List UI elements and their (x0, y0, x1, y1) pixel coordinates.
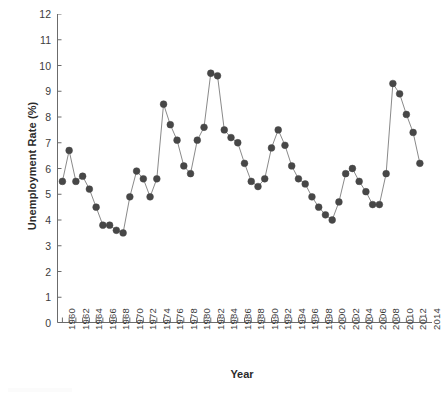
y-tick-label: 12 (39, 8, 51, 20)
data-point-marker (140, 175, 147, 182)
data-point-marker (363, 188, 370, 195)
data-point-marker (282, 142, 289, 149)
y-tick-label: 6 (45, 163, 51, 175)
y-tick-label: 8 (45, 111, 51, 123)
y-tick-label: 0 (45, 317, 51, 329)
y-tick-label: 5 (45, 188, 51, 200)
y-tick-label: 9 (45, 85, 51, 97)
data-point-marker (383, 170, 390, 177)
data-point-marker (403, 111, 410, 118)
data-point-marker (180, 163, 187, 170)
y-axis-ticks (58, 14, 62, 323)
data-point-marker (329, 217, 336, 224)
axis-spines (58, 14, 433, 323)
x-tick-label: 2012 (417, 308, 428, 330)
data-point-marker (201, 124, 208, 131)
data-point-marker (248, 178, 255, 185)
data-point-marker (106, 222, 113, 229)
x-tick-label: 2000 (336, 308, 347, 330)
data-point-marker (126, 193, 133, 200)
x-tick-label: 2006 (377, 308, 388, 330)
data-point-marker (59, 178, 66, 185)
x-tick-label: 1990 (269, 308, 280, 330)
data-point-marker (86, 186, 93, 193)
x-tick-label: 2002 (350, 308, 361, 330)
data-point-marker (93, 204, 100, 211)
data-point-marker (376, 201, 383, 208)
data-point-marker (147, 193, 154, 200)
y-axis-title: Unemployment Rate (%) (26, 71, 38, 261)
x-tick-label: 1972 (147, 308, 158, 330)
plot-svg (57, 14, 432, 323)
x-tick-label: 1996 (309, 308, 320, 330)
data-point-marker (72, 178, 79, 185)
x-tick-label: 1964 (93, 308, 104, 330)
y-tick-label: 10 (39, 60, 51, 72)
data-point-marker (187, 170, 194, 177)
y-tick-label: 1 (45, 291, 51, 303)
x-tick-label: 2008 (390, 308, 401, 330)
data-point-marker (268, 145, 275, 152)
y-tick-label: 2 (45, 266, 51, 278)
data-point-marker (113, 227, 120, 234)
x-tick-label: 1988 (255, 308, 266, 330)
data-point-marker (295, 175, 302, 182)
x-tick-label: 1998 (323, 308, 334, 330)
unemployment-rate-line-chart: Unemployment Rate (%) 0123456789101112 1… (0, 0, 442, 395)
data-point-marker (221, 126, 228, 133)
data-point-marker (302, 181, 309, 188)
data-point-marker (336, 199, 343, 206)
data-point-marker (194, 137, 201, 144)
data-point-marker (228, 134, 235, 141)
data-point-marker (356, 178, 363, 185)
y-tick-label: 3 (45, 240, 51, 252)
x-tick-label: 1966 (107, 308, 118, 330)
y-tick-label: 11 (40, 34, 51, 46)
plot-area: 0123456789101112 19601962196419661968197… (57, 14, 432, 323)
data-point-marker (416, 160, 423, 167)
x-tick-label: 1992 (282, 308, 293, 330)
page-edge-artifact (8, 388, 72, 392)
data-point-marker (174, 137, 181, 144)
x-axis-title: Year (48, 368, 436, 380)
x-tick-label: 1978 (188, 308, 199, 330)
data-point-marker (342, 170, 349, 177)
data-point-marker (410, 129, 417, 136)
x-tick-label: 1970 (134, 308, 145, 330)
y-tick-label: 7 (45, 137, 51, 149)
x-tick-label: 1982 (215, 308, 226, 330)
x-tick-label: 1994 (296, 308, 307, 330)
y-tick-label: 4 (45, 214, 51, 226)
data-point-marker (396, 90, 403, 97)
data-point-marker (167, 121, 174, 128)
x-tick-label: 1962 (80, 308, 91, 330)
data-point-marker (315, 204, 322, 211)
data-point-marker (234, 139, 241, 146)
data-point-marker (207, 70, 214, 77)
data-point-marker (241, 160, 248, 167)
data-point-marker (261, 175, 268, 182)
data-point-marker (275, 126, 282, 133)
data-point-marker (255, 183, 262, 190)
data-point-marker (214, 72, 221, 79)
x-tick-label: 2004 (363, 308, 374, 330)
data-point-marker (153, 175, 160, 182)
x-tick-label: 1984 (228, 308, 239, 330)
x-tick-label: 1986 (242, 308, 253, 330)
x-tick-label: 2010 (404, 308, 415, 330)
data-point-marker (288, 163, 295, 170)
x-tick-label: 2014 (431, 308, 442, 330)
x-tick-label: 1968 (120, 308, 131, 330)
data-point-marker (160, 101, 167, 108)
data-line (62, 73, 419, 233)
x-tick-label: 1980 (201, 308, 212, 330)
data-point-marker (133, 168, 140, 175)
x-tick-label: 1976 (174, 308, 185, 330)
data-point-marker (79, 173, 86, 180)
data-point-marker (66, 147, 73, 154)
data-point-marker (389, 80, 396, 87)
x-tick-label: 1960 (66, 308, 77, 330)
x-tick-label: 1974 (161, 308, 172, 330)
data-point-marker (369, 201, 376, 208)
data-point-marker (120, 229, 127, 236)
